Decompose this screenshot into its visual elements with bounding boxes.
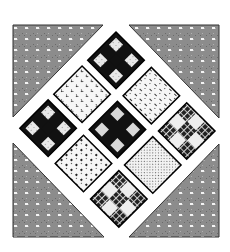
quilt-svg bbox=[0, 0, 230, 252]
quilt-artwork bbox=[0, 0, 230, 252]
